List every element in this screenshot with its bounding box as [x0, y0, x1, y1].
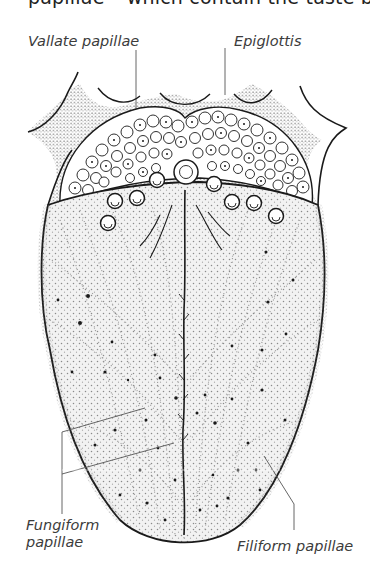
tongue-body	[42, 182, 325, 542]
tongue-illustration	[0, 0, 370, 574]
epiglottis-left-arch	[98, 88, 140, 102]
